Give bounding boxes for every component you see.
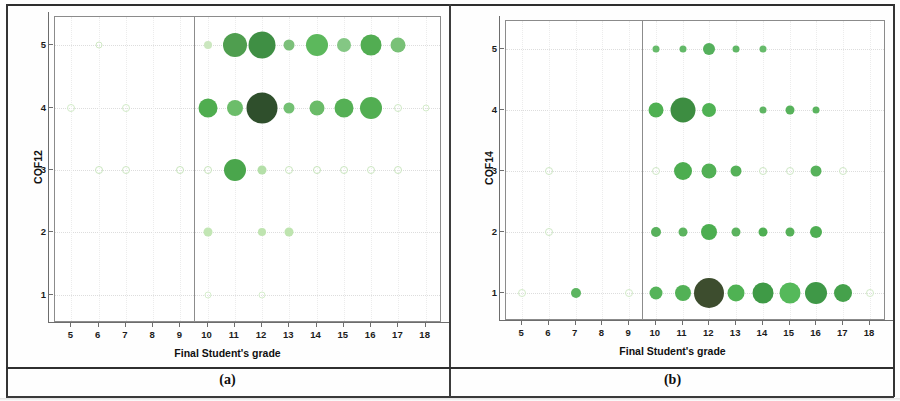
y-axis-tick — [499, 109, 504, 110]
data-point — [224, 159, 246, 181]
data-point — [759, 45, 766, 52]
data-point — [204, 166, 212, 174]
x-axis-tick-label: 9 — [625, 327, 630, 338]
y-axis-line — [499, 16, 500, 320]
data-point — [649, 287, 662, 300]
data-point — [545, 228, 553, 236]
data-point — [651, 227, 661, 237]
data-point — [701, 224, 717, 240]
x-axis-tick — [343, 322, 344, 327]
x-axis-tick — [316, 322, 317, 327]
x-axis-tick-label: 8 — [149, 329, 154, 340]
data-point — [648, 102, 663, 117]
data-point — [625, 289, 633, 297]
data-point — [95, 42, 102, 49]
gridline-horizontal — [55, 295, 440, 296]
x-axis-line — [499, 320, 893, 321]
data-point — [259, 291, 266, 298]
data-point — [227, 100, 243, 116]
x-axis-tick-label: 16 — [365, 329, 376, 340]
data-point — [422, 104, 429, 111]
gridline-horizontal — [506, 232, 884, 233]
data-point — [805, 282, 827, 304]
data-point — [759, 167, 767, 175]
data-point — [223, 33, 247, 57]
y-axis-line — [48, 12, 49, 322]
x-axis-tick — [575, 320, 576, 325]
x-axis-tick-label: 18 — [864, 327, 875, 338]
x-axis-tick — [842, 320, 843, 325]
data-point — [334, 98, 353, 117]
x-axis-tick-label: 14 — [310, 329, 321, 340]
data-point — [731, 166, 742, 177]
gridline-vertical — [629, 21, 630, 319]
y-axis-tick-label: 4 — [487, 103, 497, 114]
data-point — [839, 167, 847, 175]
gridline-vertical — [576, 21, 577, 319]
data-point — [340, 166, 348, 174]
data-point — [694, 278, 724, 308]
data-point — [122, 166, 130, 174]
y-axis-tick-label: 1 — [487, 287, 497, 298]
data-point — [571, 288, 581, 298]
data-point — [866, 289, 874, 297]
y-axis-tick — [499, 231, 504, 232]
data-point — [675, 285, 691, 301]
x-axis-tick — [370, 322, 371, 327]
y-axis-tick-label: 2 — [487, 226, 497, 237]
x-axis-tick — [735, 320, 736, 325]
x-axis-tick — [397, 322, 398, 327]
data-point — [702, 103, 716, 117]
data-point — [204, 41, 212, 49]
reference-line — [194, 17, 195, 323]
data-point — [391, 38, 406, 53]
data-point — [258, 166, 267, 175]
x-axis-tick-label: 13 — [730, 327, 741, 338]
data-point — [313, 166, 321, 174]
data-point — [306, 34, 328, 56]
x-axis-tick-label: 12 — [703, 327, 714, 338]
x-axis-tick-label: 9 — [177, 329, 182, 340]
gridline-vertical — [71, 17, 72, 321]
x-axis-tick-label: 13 — [283, 329, 294, 340]
x-axis-tick — [762, 320, 763, 325]
data-point — [670, 97, 695, 122]
data-point — [247, 92, 278, 123]
data-point — [758, 228, 767, 237]
data-point — [361, 35, 382, 56]
x-axis-tick — [179, 322, 180, 327]
y-axis-tick — [48, 44, 53, 45]
data-point — [204, 291, 211, 298]
data-point — [786, 167, 794, 175]
y-axis-tick-label: 2 — [36, 226, 46, 237]
x-axis-tick-label: 16 — [810, 327, 821, 338]
data-point — [258, 228, 266, 236]
caption-b: (b) — [451, 372, 894, 388]
gridline-horizontal — [55, 170, 440, 171]
x-axis-tick — [815, 320, 816, 325]
x-axis-tick-label: 10 — [201, 329, 212, 340]
data-point — [394, 104, 402, 112]
x-axis-title-a: Final Student's grade — [6, 347, 449, 359]
x-axis-tick-label: 5 — [68, 329, 73, 340]
y-axis-tick — [48, 107, 53, 108]
y-axis-tick-label: 1 — [36, 288, 46, 299]
y-axis-tick-label: 3 — [487, 165, 497, 176]
data-point — [733, 45, 740, 52]
y-axis-tick — [499, 292, 504, 293]
data-point — [652, 45, 659, 52]
y-axis-tick — [499, 170, 504, 171]
y-axis-tick-label: 3 — [36, 164, 46, 175]
data-point — [759, 106, 766, 113]
data-point — [249, 32, 276, 59]
x-axis-tick-label: 11 — [677, 327, 687, 338]
data-point — [95, 166, 103, 174]
x-axis-tick — [789, 320, 790, 325]
data-point — [309, 100, 324, 115]
x-axis-tick-label: 17 — [392, 329, 403, 340]
y-axis-tick-label: 5 — [487, 42, 497, 53]
data-point — [732, 228, 741, 237]
x-axis-tick — [601, 320, 602, 325]
chart-panel-b: COF14 Final Student's grade 567891011121… — [451, 4, 894, 367]
plot-area-a — [54, 16, 441, 322]
